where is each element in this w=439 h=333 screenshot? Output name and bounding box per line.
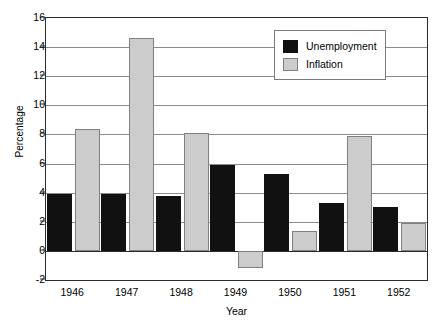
x-tick-label-1946: 1946 xyxy=(61,286,84,298)
y-tick-label-12: 12 xyxy=(5,70,45,80)
x-tick-label-1950: 1950 xyxy=(278,286,301,298)
y-tick-label-4: 4 xyxy=(5,187,45,197)
x-tick-label-1948: 1948 xyxy=(169,286,192,298)
y-tick-label-16: 16 xyxy=(5,12,45,22)
bar-inflation-1948 xyxy=(184,133,209,251)
legend-swatch-inflation-icon xyxy=(283,58,298,71)
x-tick-label-1952: 1952 xyxy=(387,286,410,298)
legend-label-inflation: Inflation xyxy=(306,58,343,70)
legend-swatch-unemployment-icon xyxy=(283,40,298,53)
x-tick-label-1947: 1947 xyxy=(115,286,138,298)
bar-unemployment-1951 xyxy=(319,203,344,251)
chart-legend: Unemployment Inflation xyxy=(274,30,386,80)
x-axis-labels: 1946194719481949195019511952 xyxy=(45,286,428,302)
y-axis-scale: 1614121086420-2 xyxy=(0,17,45,281)
y-tick-label-0: 0 xyxy=(5,245,45,255)
gridline-0 xyxy=(46,251,427,252)
x-axis-title: Year xyxy=(45,305,428,317)
y-tick-label-14: 14 xyxy=(5,41,45,51)
bar-unemployment-1950 xyxy=(264,174,289,251)
bar-unemployment-1947 xyxy=(101,194,126,251)
bar-inflation-1951 xyxy=(347,136,372,251)
bar-inflation-1946 xyxy=(75,129,100,251)
x-tick-label-1951: 1951 xyxy=(333,286,356,298)
legend-label-unemployment: Unemployment xyxy=(306,40,377,52)
bar-inflation-1952 xyxy=(401,223,426,251)
bar-inflation-1950 xyxy=(292,231,317,251)
legend-item-inflation: Inflation xyxy=(283,55,378,73)
y-tick-label-2: 2 xyxy=(5,216,45,226)
y-tick-label-6: 6 xyxy=(5,158,45,168)
bar-inflation-1947 xyxy=(129,38,154,251)
bar-unemployment-1949 xyxy=(210,165,235,251)
y-tick-label-8: 8 xyxy=(5,128,45,138)
bar-unemployment-1952 xyxy=(373,207,398,251)
bar-unemployment-1946 xyxy=(47,194,72,251)
gridline-10 xyxy=(46,105,427,106)
bar-unemployment-1948 xyxy=(156,196,181,251)
legend-item-unemployment: Unemployment xyxy=(283,37,378,55)
bar-chart: Percentage 1614121086420-2 1946194719481… xyxy=(0,0,439,333)
x-tick-label-1949: 1949 xyxy=(224,286,247,298)
y-tick-label-10: 10 xyxy=(5,99,45,109)
bar-inflation-1949 xyxy=(238,251,263,268)
y-tick-label--2: -2 xyxy=(5,274,45,284)
